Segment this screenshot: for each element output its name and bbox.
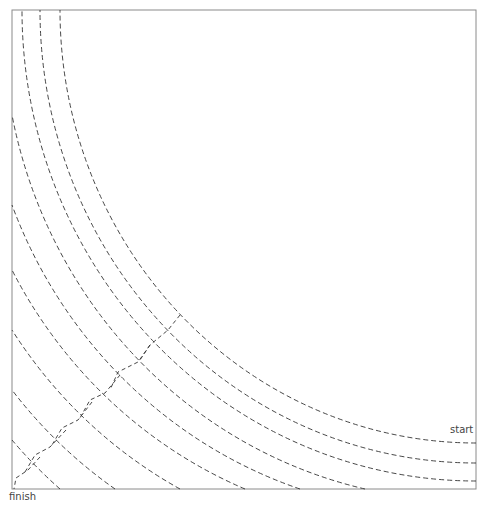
step-connectors <box>14 315 180 489</box>
arc-path-8 <box>12 440 60 489</box>
arc-path-0 <box>22 10 476 481</box>
arc-path-7 <box>12 390 115 489</box>
connector-2 <box>80 375 120 418</box>
connector-5 <box>14 457 40 489</box>
toolpath-arcs <box>12 10 476 489</box>
connector-4 <box>25 430 66 472</box>
arc-path-6 <box>12 330 180 489</box>
toolpath-diagram <box>0 0 481 515</box>
arc-path-5 <box>12 270 245 489</box>
finish-label: finish <box>9 491 36 502</box>
arc-path-3 <box>12 115 365 489</box>
start-label: start <box>450 424 473 435</box>
arc-path-1 <box>40 10 476 463</box>
work-area-frame <box>12 10 476 489</box>
connector-1 <box>110 345 150 390</box>
connector-3 <box>52 402 92 445</box>
arc-path-4 <box>12 205 300 489</box>
